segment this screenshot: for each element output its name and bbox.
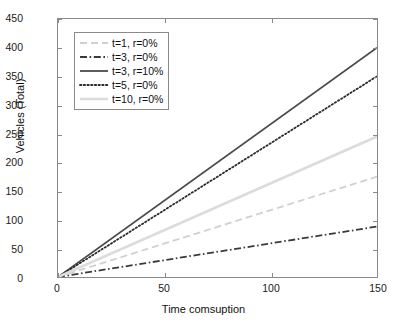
legend-line-sample: [79, 79, 109, 91]
legend-item[interactable]: t=3, r=10%: [79, 64, 163, 78]
y-tick-label: 150: [0, 186, 23, 196]
series-line: [58, 177, 377, 277]
y-tick-label: 300: [0, 100, 23, 110]
x-tick-label: 150: [369, 282, 387, 294]
legend-item[interactable]: t=3, r=0%: [79, 50, 163, 64]
legend-line-sample: [79, 65, 109, 77]
y-tick-mark: [373, 250, 377, 251]
legend-item[interactable]: t=1, r=0%: [79, 36, 163, 50]
legend-line-sample: [79, 37, 109, 49]
x-tick-label: 50: [158, 282, 170, 294]
legend-item-label: t=3, r=0%: [112, 51, 158, 63]
legend-item-label: t=1, r=0%: [112, 37, 158, 49]
legend-item-label: t=3, r=10%: [112, 65, 163, 77]
series-line: [58, 227, 377, 277]
x-tick-mark: [58, 273, 59, 277]
x-tick-mark: [58, 19, 59, 23]
chart-legend: t=1, r=0%t=3, r=0%t=3, r=10%t=5, r=0%t=1…: [74, 32, 169, 110]
legend-item[interactable]: t=5, r=0%: [79, 78, 163, 92]
y-tick-mark: [373, 19, 377, 20]
series-line: [58, 137, 377, 277]
chart-figure: Vehicles (Total) 05010015020025030035040…: [0, 0, 407, 326]
y-tick-mark: [58, 192, 62, 193]
y-tick-mark: [373, 163, 377, 164]
y-tick-label: 100: [0, 215, 23, 225]
legend-line-sample: [79, 51, 109, 63]
x-axis-title: Time comsuption: [0, 303, 407, 315]
x-tick-mark: [165, 19, 166, 23]
y-tick-mark: [373, 48, 377, 49]
y-tick-mark: [58, 77, 62, 78]
y-tick-mark: [373, 106, 377, 107]
y-tick-mark: [58, 221, 62, 222]
y-tick-label: 400: [0, 42, 23, 52]
x-tick-mark: [272, 273, 273, 277]
y-tick-mark: [58, 135, 62, 136]
legend-line-sample: [79, 93, 109, 105]
y-tick-label: 450: [0, 13, 23, 23]
x-tick-label: 100: [262, 282, 280, 294]
legend-item[interactable]: t=10, r=0%: [79, 92, 163, 106]
y-tick-mark: [58, 250, 62, 251]
y-tick-mark: [373, 192, 377, 193]
y-tick-label: 200: [0, 157, 23, 167]
legend-item-label: t=5, r=0%: [112, 79, 158, 91]
y-tick-mark: [58, 163, 62, 164]
x-tick-mark: [272, 19, 273, 23]
y-tick-label: 50: [0, 244, 23, 254]
y-tick-label: 350: [0, 71, 23, 81]
y-tick-mark: [58, 48, 62, 49]
y-tick-mark: [373, 135, 377, 136]
y-tick-mark: [373, 77, 377, 78]
plot-area: t=1, r=0%t=3, r=0%t=3, r=10%t=5, r=0%t=1…: [57, 18, 378, 278]
y-tick-label: 0: [0, 273, 23, 283]
y-tick-mark: [58, 106, 62, 107]
legend-item-label: t=10, r=0%: [112, 93, 163, 105]
y-tick-label: 250: [0, 129, 23, 139]
y-tick-mark: [373, 221, 377, 222]
x-tick-mark: [165, 273, 166, 277]
x-tick-label: 0: [54, 282, 60, 294]
